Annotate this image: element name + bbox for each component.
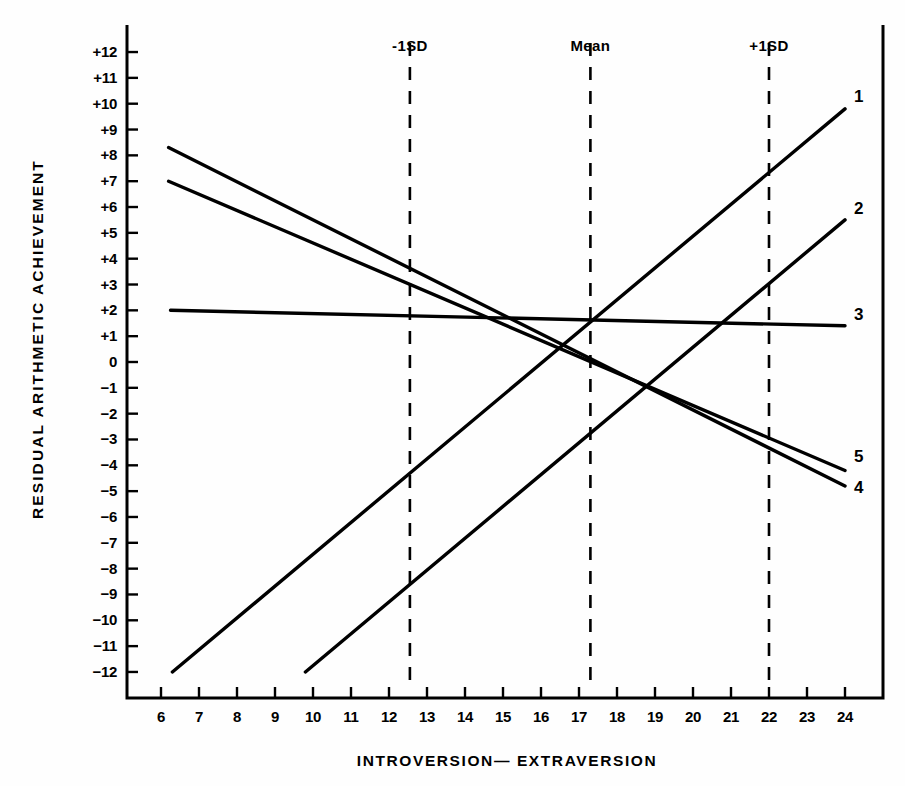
y-tick-label: +8: [65, 146, 117, 163]
y-tick-label: +12: [65, 43, 117, 60]
y-tick-label: −10: [65, 611, 117, 628]
y-tick-label: +10: [65, 95, 117, 112]
x-tick-label: 22: [749, 708, 789, 725]
y-tick-label: −12: [65, 663, 117, 680]
x-tick-label: 17: [559, 708, 599, 725]
y-tick-label: −6: [65, 508, 117, 525]
y-tick-label: −3: [65, 430, 117, 447]
series-label-5: 5: [854, 447, 863, 467]
plot-area: [0, 0, 905, 786]
y-tick-label: −11: [65, 637, 117, 654]
x-tick-label: 11: [331, 708, 371, 725]
y-tick-label: +1: [65, 327, 117, 344]
x-tick-label: 16: [521, 708, 561, 725]
chart-figure: RESIDUAL ARITHMETIC ACHIEVEMENT INTROVER…: [0, 0, 905, 786]
annotation-label-Mean: Mean: [535, 37, 645, 54]
x-tick-label: 8: [217, 708, 257, 725]
y-tick-label: +7: [65, 172, 117, 189]
x-tick-label: 7: [179, 708, 219, 725]
y-tick-label: +3: [65, 276, 117, 293]
series-label-3: 3: [854, 305, 863, 325]
x-tick-label: 19: [635, 708, 675, 725]
y-tick-label: 0: [65, 353, 117, 370]
series-label-4: 4: [854, 478, 863, 498]
x-tick-label: 13: [407, 708, 447, 725]
y-tick-label: +5: [65, 224, 117, 241]
y-tick-label: +9: [65, 121, 117, 138]
series-label-1: 1: [854, 87, 863, 107]
y-tick-label: −9: [65, 585, 117, 602]
series-line-5: [169, 181, 845, 470]
y-tick-label: +6: [65, 198, 117, 215]
y-tick-label: −4: [65, 456, 117, 473]
y-tick-label: +4: [65, 250, 117, 267]
x-tick-label: 24: [825, 708, 865, 725]
x-tick-label: 14: [445, 708, 485, 725]
x-tick-label: 20: [673, 708, 713, 725]
x-tick-label: 23: [787, 708, 827, 725]
x-tick-label: 10: [293, 708, 333, 725]
y-tick-label: −5: [65, 482, 117, 499]
y-tick-label: −1: [65, 379, 117, 396]
y-tick-label: −2: [65, 405, 117, 422]
series-line-4: [169, 148, 845, 486]
x-tick-label: 21: [711, 708, 751, 725]
y-tick-label: +11: [65, 69, 117, 86]
series-line-1: [172, 109, 845, 672]
y-tick-label: −7: [65, 534, 117, 551]
x-tick-label: 18: [597, 708, 637, 725]
x-tick-label: 12: [369, 708, 409, 725]
x-tick-label: 15: [483, 708, 523, 725]
y-tick-label: −8: [65, 560, 117, 577]
x-tick-label: 9: [255, 708, 295, 725]
annotation-label-1SD: -1SD: [355, 37, 465, 54]
x-tick-label: 6: [141, 708, 181, 725]
annotation-label-1SD: +1SD: [714, 37, 824, 54]
y-tick-label: +2: [65, 301, 117, 318]
series-label-2: 2: [854, 199, 863, 219]
